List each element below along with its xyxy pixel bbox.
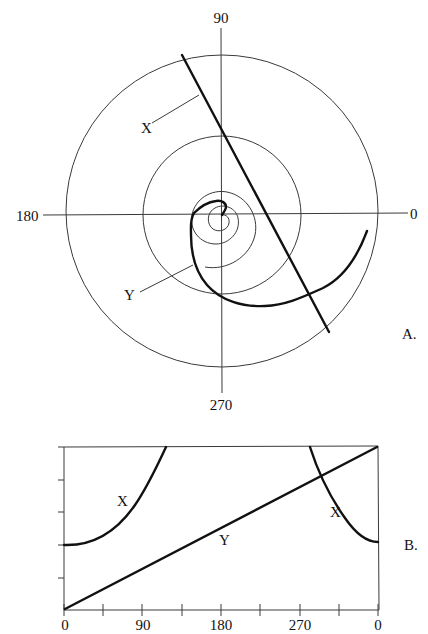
curve-label-x: X xyxy=(141,120,152,136)
curve-label-y: Y xyxy=(124,287,135,303)
panel-a-label: A. xyxy=(402,326,417,342)
x-tick-label-270: 270 xyxy=(289,617,312,633)
curve-label-x-left: X xyxy=(117,493,128,509)
polar-label-90: 90 xyxy=(214,10,229,26)
curve-x-line xyxy=(182,55,329,332)
polar-vertical-axis xyxy=(221,28,222,393)
leader-line-y xyxy=(140,265,193,292)
leader-line-x xyxy=(152,95,199,123)
x-tick-label-180: 180 xyxy=(210,617,233,633)
curve-label-x-right: X xyxy=(330,504,341,520)
panel-b-cartesian-plot: X X Y B. 0 90 180 270 0 xyxy=(58,446,418,633)
y-ticks xyxy=(58,447,64,578)
curve-x-left-branch xyxy=(64,447,166,545)
x-tick-label-360: 0 xyxy=(374,617,382,633)
curve-label-y: Y xyxy=(219,532,230,548)
figure: 90 180 0 270 X Y A. xyxy=(0,0,428,634)
curve-y-line xyxy=(65,447,377,609)
polar-label-270: 270 xyxy=(210,397,233,413)
panel-b-label: B. xyxy=(404,537,418,553)
polar-label-0: 0 xyxy=(410,206,418,222)
polar-label-180: 180 xyxy=(16,208,39,224)
frame-top xyxy=(64,446,378,447)
polar-horizontal-axis xyxy=(43,213,408,215)
curve-x-right-branch xyxy=(310,447,378,542)
curve-y-spiral xyxy=(191,201,367,306)
x-tick-label-90: 90 xyxy=(136,617,151,633)
x-tick-label-0: 0 xyxy=(61,617,69,633)
panel-a-polar-plot: 90 180 0 270 X Y A. xyxy=(16,10,418,413)
frame-right xyxy=(378,446,379,610)
